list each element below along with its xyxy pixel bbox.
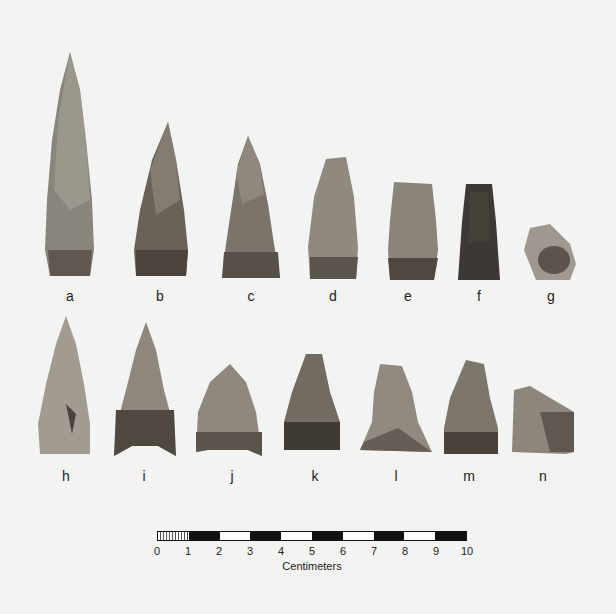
scale-segment [189, 532, 220, 540]
scale-segment [250, 532, 281, 540]
projectile-point-m [442, 358, 500, 456]
projectile-point-i [112, 320, 178, 458]
projectile-point-h [36, 314, 94, 456]
label-j: j [222, 468, 242, 484]
scale-tick: 0 [149, 545, 165, 557]
photo-plate: a b c d e f g h i j k l m n [0, 0, 616, 614]
scale-tick: 7 [366, 545, 382, 557]
projectile-point-f [456, 182, 502, 282]
scale-tick: 8 [397, 545, 413, 557]
scale-segment [435, 532, 466, 540]
scale-segment [343, 532, 374, 540]
label-a: a [60, 288, 80, 304]
label-b: b [150, 288, 170, 304]
scale-tick: 10 [459, 545, 475, 557]
scale-tick: 9 [428, 545, 444, 557]
scale-subdivided-segment [158, 532, 189, 540]
scale-unit-label: Centimeters [157, 560, 467, 572]
scale-tick: 4 [273, 545, 289, 557]
scale-segment [404, 532, 435, 540]
label-k: k [305, 468, 325, 484]
scale-bar: 0 1 2 3 4 5 6 7 8 9 10 Centimeters [157, 531, 467, 581]
label-n: n [533, 468, 553, 484]
label-f: f [469, 288, 489, 304]
label-g: g [541, 288, 561, 304]
scale-segment [220, 532, 251, 540]
scale-segment [374, 532, 405, 540]
label-i: i [134, 468, 154, 484]
label-l: l [386, 468, 406, 484]
projectile-point-g [522, 224, 578, 282]
scale-tick: 5 [304, 545, 320, 557]
projectile-point-e [384, 180, 442, 282]
scale-tick: 2 [211, 545, 227, 557]
projectile-point-k [282, 352, 342, 452]
scale-bar-segments [157, 531, 467, 541]
label-c: c [241, 288, 261, 304]
projectile-point-b [130, 120, 192, 278]
projectile-point-a [40, 50, 100, 278]
projectile-point-j [194, 362, 264, 458]
scale-tick: 1 [180, 545, 196, 557]
scale-tick: 6 [335, 545, 351, 557]
scale-segment [312, 532, 343, 540]
label-d: d [323, 288, 343, 304]
label-m: m [459, 468, 479, 484]
label-h: h [56, 468, 76, 484]
projectile-point-d [306, 157, 360, 281]
projectile-point-c [218, 134, 284, 280]
projectile-point-l [358, 362, 434, 454]
label-e: e [398, 288, 418, 304]
projectile-point-n [510, 386, 576, 456]
scale-segment [281, 532, 312, 540]
scale-tick: 3 [242, 545, 258, 557]
